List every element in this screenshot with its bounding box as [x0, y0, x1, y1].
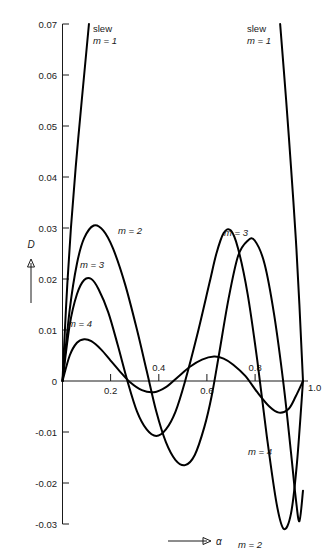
curve-label-m2-left: m = 2 — [118, 225, 143, 236]
y-tick-label: 0 — [52, 376, 57, 387]
y-tick-label: -0.01 — [35, 427, 57, 438]
slew-label-left-text: slew — [93, 23, 112, 34]
x-axis-ticks — [111, 374, 256, 381]
y-tick-label: -0.03 — [35, 519, 57, 530]
curve-m4 — [63, 339, 304, 413]
y-tick-label: 0.04 — [39, 172, 58, 183]
slew-label-right: slew m = 1 — [247, 23, 271, 46]
x-tick-label: 0.2 — [104, 385, 117, 396]
x-axis-title: α — [216, 536, 222, 547]
curve-label-m3-left: m = 3 — [80, 259, 105, 270]
x-tick-label: 0.4 — [152, 362, 165, 373]
curve-label-m4-right: m = 4 — [248, 446, 272, 457]
x-tick-label: 0.8 — [248, 362, 261, 373]
y-tick-label: 0.03 — [39, 223, 58, 234]
y-tick-labels: 0.07 0.06 0.05 0.04 0.03 0.02 0.01 0 -0.… — [35, 19, 57, 530]
y-axis-title-group: D — [27, 239, 34, 303]
y-tick-label: 0.05 — [39, 121, 58, 132]
slew-label-left: slew m = 1 — [93, 23, 117, 46]
curve-label-m2-bottom: m = 2 — [238, 539, 263, 550]
slew-label-right-text: slew — [247, 23, 266, 34]
y-axis-title: D — [27, 239, 34, 250]
y-tick-label: 0.07 — [39, 19, 58, 30]
curve-label-m4-left: m = 4 — [68, 318, 92, 329]
chart-svg: 0.07 0.06 0.05 0.04 0.03 0.02 0.01 0 -0.… — [0, 0, 331, 558]
curve-label-m3-right: m = 3 — [224, 227, 249, 238]
y-tick-label: 0.06 — [39, 70, 58, 81]
x-axis-title-group: α — [168, 536, 222, 547]
curve-slew-m1-right — [280, 24, 303, 381]
chart-figure: 0.07 0.06 0.05 0.04 0.03 0.02 0.01 0 -0.… — [0, 0, 331, 558]
y-tick-label: -0.02 — [35, 478, 57, 489]
slew-label-left-sub: m = 1 — [93, 35, 117, 46]
slew-label-right-sub: m = 1 — [247, 35, 271, 46]
y-tick-label: 0.02 — [39, 274, 58, 285]
x-tick-label: 1.0 — [308, 382, 321, 393]
y-tick-label: 0.01 — [39, 325, 58, 336]
